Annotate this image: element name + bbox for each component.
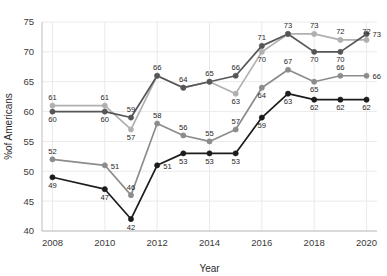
data-label-series-black-2008: 49 xyxy=(48,181,56,190)
data-label-series-medium-gray-2019: 66 xyxy=(336,63,344,72)
data-point-series-light-gray-2011 xyxy=(128,127,133,132)
data-point-series-black-2020 xyxy=(364,97,369,102)
data-label-series-black-2011: 42 xyxy=(127,223,135,232)
data-point-series-black-2015 xyxy=(233,151,238,156)
data-label-series-light-gray-2015: 63 xyxy=(231,97,239,106)
x-tick-label-2012: 2012 xyxy=(147,237,168,248)
data-label-series-black-2015: 53 xyxy=(231,157,239,166)
data-point-series-dark-gray-upper-2018 xyxy=(312,49,317,54)
data-label-series-medium-gray-2012: 58 xyxy=(153,111,161,120)
data-label-series-dark-gray-upper-2018: 70 xyxy=(310,55,318,64)
data-point-series-black-2008 xyxy=(50,175,55,180)
data-point-series-light-gray-2008 xyxy=(50,103,55,108)
data-label-series-medium-gray-2014: 55 xyxy=(205,129,213,138)
data-point-series-light-gray-2020 xyxy=(364,37,369,42)
x-axis-title: Year xyxy=(199,263,220,274)
data-label-series-medium-gray-2020: 66 xyxy=(373,72,381,81)
data-label-series-light-gray-2017: 73 xyxy=(284,21,292,30)
x-tick-label-2016: 2016 xyxy=(251,237,272,248)
data-label-series-dark-gray-upper-2008: 60 xyxy=(48,115,56,124)
data-point-series-medium-gray-2014 xyxy=(207,139,212,144)
data-point-series-dark-gray-upper-2012 xyxy=(155,73,160,78)
y-tick-label-50: 50 xyxy=(23,166,34,177)
data-point-series-black-2013 xyxy=(181,151,186,156)
x-tick-label-2010: 2010 xyxy=(94,237,115,248)
data-label-series-light-gray-2018: 73 xyxy=(310,21,318,30)
x-tick-label-2018: 2018 xyxy=(304,237,325,248)
data-label-series-black-2012: 51 xyxy=(163,162,171,171)
data-point-series-dark-gray-upper-2010 xyxy=(102,109,107,114)
data-label-series-black-2013: 53 xyxy=(179,157,187,166)
data-point-series-dark-gray-upper-2019 xyxy=(338,49,343,54)
data-label-series-black-2016: 59 xyxy=(258,121,266,130)
y-tick-label-45: 45 xyxy=(23,196,34,207)
data-point-series-dark-gray-upper-2017 xyxy=(285,31,290,36)
data-label-series-dark-gray-upper-2020: 73 xyxy=(373,30,381,39)
data-point-series-medium-gray-2012 xyxy=(155,121,160,126)
y-tick-label-55: 55 xyxy=(23,136,34,147)
data-label-series-black-2017: 63 xyxy=(284,97,292,106)
data-point-series-dark-gray-upper-2011 xyxy=(128,115,133,120)
chart-canvas: 4045505560657075200820102012201420162018… xyxy=(0,0,387,276)
x-tick-label-2008: 2008 xyxy=(42,237,63,248)
data-label-series-dark-gray-upper-2016: 71 xyxy=(258,33,266,42)
data-point-series-dark-gray-upper-2013 xyxy=(181,85,186,90)
data-label-series-medium-gray-2017: 67 xyxy=(284,57,292,66)
data-label-series-light-gray-2014: 65 xyxy=(205,69,213,78)
data-label-series-light-gray-2020: 72 xyxy=(362,27,370,36)
data-point-series-light-gray-2010 xyxy=(102,103,107,108)
data-label-series-black-2020: 62 xyxy=(362,103,370,112)
y-tick-label-60: 60 xyxy=(23,106,34,117)
data-point-series-medium-gray-2010 xyxy=(102,163,107,168)
data-point-series-dark-gray-upper-2016 xyxy=(259,43,264,48)
data-label-series-medium-gray-2010: 51 xyxy=(111,162,119,171)
data-point-series-medium-gray-2008 xyxy=(50,157,55,162)
data-label-series-light-gray-2011: 57 xyxy=(127,133,135,142)
x-tick-label-2014: 2014 xyxy=(199,237,220,248)
data-point-series-black-2012 xyxy=(155,163,160,168)
data-label-series-medium-gray-2015: 57 xyxy=(231,117,239,126)
y-tick-label-40: 40 xyxy=(23,225,34,236)
data-point-series-light-gray-2018 xyxy=(312,31,317,36)
data-point-series-light-gray-2019 xyxy=(338,37,343,42)
data-point-series-black-2019 xyxy=(338,97,343,102)
data-point-series-dark-gray-upper-2014 xyxy=(207,79,212,84)
y-tick-label-70: 70 xyxy=(23,46,34,57)
data-point-series-medium-gray-2020 xyxy=(364,73,369,78)
data-point-series-medium-gray-2018 xyxy=(312,79,317,84)
data-point-series-light-gray-2015 xyxy=(233,91,238,96)
data-label-series-light-gray-2013: 64 xyxy=(179,75,187,84)
data-point-series-black-2011 xyxy=(128,216,133,221)
data-label-series-black-2018: 62 xyxy=(310,103,318,112)
data-label-series-medium-gray-2011: 46 xyxy=(127,183,135,192)
y-tick-label-65: 65 xyxy=(23,76,34,87)
data-label-series-light-gray-2010: 61 xyxy=(101,93,109,102)
data-point-series-black-2010 xyxy=(102,187,107,192)
data-point-series-medium-gray-2015 xyxy=(233,127,238,132)
data-point-series-black-2018 xyxy=(312,97,317,102)
x-tick-label-2020: 2020 xyxy=(356,237,377,248)
data-point-series-dark-gray-upper-2015 xyxy=(233,73,238,78)
data-label-series-dark-gray-upper-2010: 60 xyxy=(101,115,109,124)
data-label-series-medium-gray-2008: 52 xyxy=(48,147,56,156)
data-label-series-medium-gray-2013: 56 xyxy=(179,123,187,132)
line-chart: 4045505560657075200820102012201420162018… xyxy=(0,0,387,276)
data-point-series-black-2017 xyxy=(285,91,290,96)
data-label-series-medium-gray-2018: 65 xyxy=(310,85,318,94)
data-label-series-black-2014: 53 xyxy=(205,157,213,166)
data-label-series-black-2010: 47 xyxy=(101,193,109,202)
data-point-series-black-2014 xyxy=(207,151,212,156)
data-point-series-medium-gray-2017 xyxy=(285,67,290,72)
data-label-series-light-gray-2016: 70 xyxy=(258,55,266,64)
data-label-series-light-gray-2008: 61 xyxy=(48,93,56,102)
data-label-series-dark-gray-upper-2011: 59 xyxy=(127,105,135,114)
data-point-series-medium-gray-2019 xyxy=(338,73,343,78)
data-label-series-light-gray-2012: 66 xyxy=(153,63,161,72)
data-label-series-dark-gray-upper-2015: 66 xyxy=(231,63,239,72)
y-axis-title: %of Americans xyxy=(3,93,14,160)
data-label-series-light-gray-2019: 72 xyxy=(336,27,344,36)
y-tick-label-75: 75 xyxy=(23,16,34,27)
data-point-series-medium-gray-2011 xyxy=(128,193,133,198)
data-label-series-black-2019: 62 xyxy=(336,103,344,112)
data-point-series-dark-gray-upper-2008 xyxy=(50,109,55,114)
